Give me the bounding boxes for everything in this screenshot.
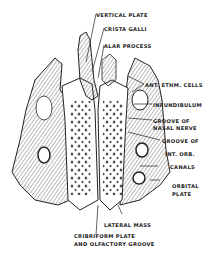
label-lateral-mass: LATERAL MASS — [104, 222, 151, 228]
label-crista-galli: CRISTA GALLI — [104, 26, 147, 32]
label-cribriform-1: CRIBRIFORM PLATE — [74, 233, 135, 239]
label-vertical-plate: VERTICAL PLATE — [96, 12, 148, 18]
label-orbital-plate-1: ORBITAL — [172, 183, 199, 189]
right-cell-upper — [132, 90, 148, 110]
label-groove-nasal-nerve-1: GROOVE OF — [153, 118, 190, 124]
label-cribriform-2: AND OLFACTORY GROOVE — [74, 241, 155, 247]
label-alar-process: ALAR PROCESS — [104, 43, 152, 49]
left-cell-lower — [38, 147, 50, 163]
label-groove-int-orb-2: INT. ORB. — [165, 151, 195, 157]
alar-process — [102, 54, 116, 86]
label-canals: CANALS — [170, 164, 195, 170]
left-lateral-mass — [12, 58, 70, 205]
left-cell-upper — [36, 96, 52, 120]
label-ant-ethm-cells: ANT. ETHM. CELLS — [145, 82, 203, 88]
right-lateral-mass — [120, 58, 170, 205]
label-groove-int-orb-1: GROOVE OF — [162, 138, 199, 144]
label-orbital-plate-2: PLATE — [172, 191, 191, 197]
label-infundibulum: INFUNDIBULUM — [153, 102, 202, 108]
right-cell-mid — [136, 143, 148, 157]
label-groove-nasal-nerve-2: NASAL NERVE — [153, 125, 197, 131]
right-cell-lower — [133, 172, 145, 184]
